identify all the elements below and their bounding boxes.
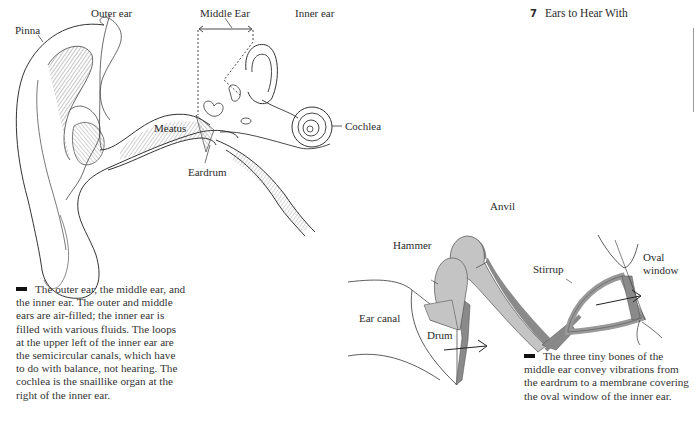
label-drum: Drum — [427, 330, 453, 341]
label-ear-canal: Ear canal — [359, 313, 400, 324]
label-inner-ear: Inner ear — [295, 8, 334, 19]
label-pinna: Pinna — [15, 25, 40, 36]
label-oval-window-1: Oval — [643, 252, 664, 263]
caption-bullet-icon — [16, 287, 27, 291]
label-cochlea: Cochlea — [345, 121, 381, 132]
label-meatus: Meatus — [154, 123, 186, 134]
label-anvil: Anvil — [490, 201, 515, 212]
label-outer-ear: Outer ear — [91, 8, 132, 19]
label-middle-ear: Middle Ear — [200, 8, 250, 19]
caption-bullet-icon — [524, 354, 535, 358]
label-hammer: Hammer — [393, 240, 431, 251]
caption-ossicles: The three tiny bones of the middle ear c… — [524, 350, 692, 403]
label-eardrum: Eardrum — [188, 167, 226, 178]
label-oval-window-2: window — [643, 265, 678, 276]
label-stirrup: Stirrup — [533, 264, 564, 275]
caption-ossicles-text: The three tiny bones of the middle ear c… — [524, 350, 689, 402]
caption-ear-anatomy-text: The outer ear, the middle ear, and the i… — [16, 283, 185, 401]
caption-ear-anatomy: The outer ear, the middle ear, and the i… — [16, 283, 186, 402]
